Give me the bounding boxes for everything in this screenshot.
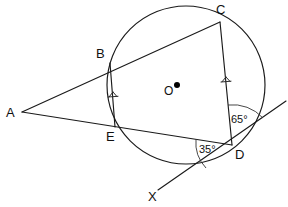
segment-a-to-c xyxy=(22,22,220,112)
label-point-x: X xyxy=(148,189,157,204)
label-angle-35: 35° xyxy=(199,143,216,155)
chord-c-to-d xyxy=(220,22,232,145)
segment-a-to-d xyxy=(22,112,232,145)
label-angle-65: 65° xyxy=(231,113,248,125)
label-point-b: B xyxy=(96,46,105,61)
label-point-d: D xyxy=(235,147,244,162)
circle-center-dot xyxy=(174,82,180,88)
tangent-line-through-d xyxy=(158,101,286,190)
label-point-a: A xyxy=(6,105,15,120)
label-point-c: C xyxy=(216,2,225,17)
main-circle xyxy=(107,6,265,164)
geometry-figure: O A B C D E X 65° 35° xyxy=(0,0,288,207)
geometry-canvas: O A B C D E X 65° 35° xyxy=(0,0,288,207)
label-center-o: O xyxy=(164,84,173,98)
label-point-e: E xyxy=(106,129,115,144)
